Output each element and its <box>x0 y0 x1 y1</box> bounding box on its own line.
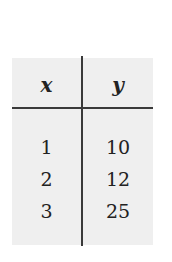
cell-x-row-1: 1 <box>12 136 81 158</box>
cell-y-row-1: 10 <box>83 136 153 158</box>
header-x: x <box>12 74 81 96</box>
header-divider <box>12 107 153 109</box>
cell-x-row-2: 2 <box>12 168 81 190</box>
cell-x-row-3: 3 <box>12 200 81 222</box>
header-y: y <box>83 74 153 96</box>
cell-y-row-3: 25 <box>83 200 153 222</box>
cell-y-row-2: 12 <box>83 168 153 190</box>
